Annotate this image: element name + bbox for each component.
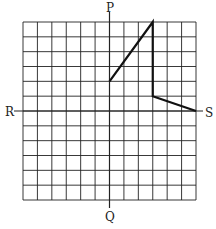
axis-label-r: R [5, 106, 14, 118]
axis-label-p: P [106, 2, 114, 14]
axis-label-q: Q [105, 211, 115, 223]
axis-label-s: S [205, 107, 213, 119]
grid-diagram [0, 0, 216, 229]
